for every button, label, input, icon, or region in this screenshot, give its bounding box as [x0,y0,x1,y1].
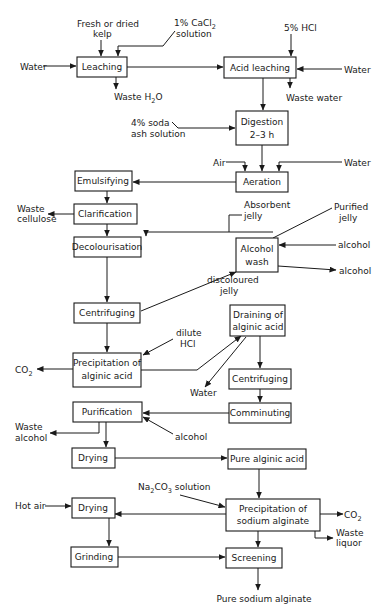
label-fresh-kelp: Fresh or dried [77,19,139,29]
label-waste-cellulose: Waste [17,204,45,214]
box-clarification: Clarification [74,204,137,224]
box-pure-alginic-acid: Pure alginic acid [228,449,306,469]
svg-text:Acid leaching: Acid leaching [230,63,290,73]
label-hot-air: Hot air [15,501,46,511]
svg-text:Alcohol: Alcohol [241,244,274,254]
svg-text:Digestion: Digestion [241,117,284,127]
svg-text:2–3 h: 2–3 h [250,130,275,140]
label-dilute: dilute [176,328,202,338]
label-purified: Purified [334,202,368,212]
label-dilute-hcl: HCl [180,339,196,349]
flow-diagram: Leaching Acid leaching Fresh or dried ke… [0,0,379,615]
label-absorbent: Absorbent [244,200,291,210]
svg-text:Drying: Drying [78,453,108,463]
label-co2-left: CO2 [15,365,33,378]
label-water-left: Water [20,62,47,72]
svg-text:Comminuting: Comminuting [230,408,291,418]
box-draining-alginic-acid: Draining of alginic acid [230,305,285,336]
svg-text:Leaching: Leaching [82,62,122,72]
label-waste-liquor: Waste [336,528,364,538]
box-drying-2: Drying [72,498,115,518]
label-pure-sodium-alginate: Pure sodium alginate [216,594,312,604]
box-centrifuging-2: Centrifuging [229,369,291,389]
label-waste-alcohol: Waste [15,422,43,432]
svg-text:Centrifuging: Centrifuging [79,308,135,318]
box-digestion: Digestion 2–3 h [236,111,288,145]
label-alcohol-out: alcohol [339,266,371,276]
label-waste-liquor-2: liquor [336,538,362,548]
svg-text:Centrifuging: Centrifuging [232,374,288,384]
svg-text:wash: wash [245,257,268,267]
label-water-right: Water [344,65,371,75]
box-centrifuging-1: Centrifuging [74,303,140,323]
label-soda-ash-solution: ash solution [131,129,185,139]
box-comminuting: Comminuting [229,403,291,423]
svg-text:alginic acid: alginic acid [233,322,284,332]
svg-text:Draining of: Draining of [233,310,284,320]
label-na2co3-solution: Na2CO3 solution [138,482,210,495]
label-air: Air [213,158,226,168]
svg-text:Screening: Screening [232,553,277,563]
label-soda-ash: 4% soda [131,118,170,128]
box-acid-leaching: Acid leaching [224,57,296,78]
box-decolourisation: Decolourisation [72,237,142,257]
svg-text:Purification: Purification [82,407,133,417]
label-hcl-5pct: 5% HCl [284,23,317,33]
label-waste-alcohol-2: alcohol [15,433,47,443]
box-drying-1: Drying [72,448,115,468]
box-purification: Purification [73,402,142,422]
svg-text:Precipitation of: Precipitation of [73,358,142,368]
label-purified-jelly: jelly [338,213,358,223]
label-co2-right: CO2 [344,510,362,523]
label-absorbent-jelly: jelly [243,211,263,221]
label-alcohol-purification: alcohol [175,432,207,442]
svg-text:Drying: Drying [78,503,108,513]
label-discoloured-jelly: jelly [219,286,239,296]
label-waste-water: Waste water [286,93,342,103]
label-alcohol-in: alcohol [338,240,370,250]
svg-text:alginic acid: alginic acid [82,371,133,381]
box-leaching: Leaching [77,57,127,77]
box-alcohol-wash: Alcohol wash [236,238,278,272]
label-water-aeration: Water [344,158,371,168]
svg-text:Clarification: Clarification [78,209,132,219]
box-grinding: Grinding [71,547,118,567]
label-discoloured: discoloured [207,275,259,285]
box-precipitation-sodium-alginate: Precipitation of sodium alginate [226,499,320,531]
box-aeration: Aeration [236,172,288,192]
box-emulsifying: Emulsifying [75,171,132,191]
label-waste-h2o: Waste H2O [114,92,162,105]
svg-text:Pure alginic acid: Pure alginic acid [230,454,304,464]
svg-text:Emulsifying: Emulsifying [77,176,129,186]
svg-text:Decolourisation: Decolourisation [72,242,142,252]
label-cellulose: cellulose [17,214,57,224]
svg-text:sodium alginate: sodium alginate [237,516,310,526]
svg-text:Grinding: Grinding [75,552,114,562]
box-precipitation-alginic-acid: Precipitation of alginic acid [73,353,142,387]
box-screening: Screening [226,548,282,568]
svg-text:Precipitation of: Precipitation of [239,504,308,514]
svg-text:Aeration: Aeration [243,177,281,187]
label-water-drain: Water [190,388,217,398]
label-kelp: kelp [93,29,112,39]
label-cacl2-solution: solution [176,29,212,39]
